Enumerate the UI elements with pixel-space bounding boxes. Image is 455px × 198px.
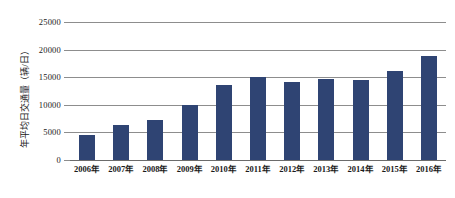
- x-axis-tick-label: 2010年: [211, 163, 237, 176]
- bar: [284, 82, 300, 160]
- plot-area: 0500010000150002000025000: [70, 22, 446, 160]
- bar: [250, 77, 266, 160]
- bar: [216, 85, 232, 160]
- y-axis-tick-label: 15000: [39, 73, 61, 82]
- bar: [387, 71, 403, 160]
- x-axis-tick-label: 2016年: [416, 163, 442, 176]
- y-axis-tick-label: 10000: [39, 100, 61, 109]
- bar: [182, 105, 198, 160]
- bar-chart: 年平均日交通量（辆/日） 0500010000150002000025000 2…: [0, 0, 455, 198]
- y-axis-tick-label: 5000: [43, 128, 61, 137]
- x-axis-tick-label: 2008年: [142, 163, 168, 176]
- bar: [318, 79, 334, 160]
- x-axis-tick-label: 2012年: [279, 163, 305, 176]
- x-axis-tick-label: 2009年: [177, 163, 203, 176]
- bars-group: [70, 22, 446, 160]
- y-axis-tick-label: 0: [57, 156, 61, 165]
- y-axis-tick-mark: [64, 160, 70, 161]
- x-axis-tick-label: 2015年: [382, 163, 408, 176]
- bar: [79, 135, 95, 160]
- y-axis-tick-label: 20000: [39, 45, 61, 54]
- bar: [353, 80, 369, 160]
- x-axis-tick-label: 2013年: [313, 163, 339, 176]
- x-axis-tick-label: 2006年: [74, 163, 100, 176]
- x-axis-tick-label: 2011年: [245, 163, 271, 176]
- bar: [147, 120, 163, 160]
- x-axis-tick-labels: 2006年2007年2008年2009年2010年2011年2012年2013年…: [70, 163, 446, 179]
- y-axis-title: 年平均日交通量（辆/日）: [16, 27, 34, 167]
- y-axis-tick-label: 25000: [39, 18, 61, 27]
- bar: [421, 56, 437, 160]
- x-axis-line: [70, 160, 446, 161]
- x-axis-tick-label: 2007年: [108, 163, 134, 176]
- x-axis-tick-label: 2014年: [348, 163, 374, 176]
- bar: [113, 125, 129, 160]
